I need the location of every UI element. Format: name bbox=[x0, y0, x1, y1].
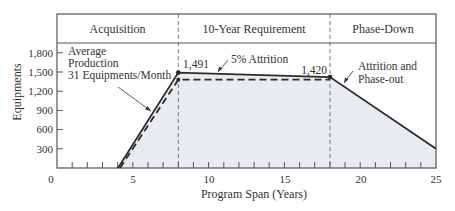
ann-avg-arrow bbox=[118, 87, 151, 111]
annotation-attrition: 5% Attrition bbox=[218, 53, 288, 72]
ann-phaseout-line1: Attrition and bbox=[358, 60, 417, 72]
x-tick-25: 25 bbox=[431, 173, 443, 185]
ann-avg-arrowhead bbox=[145, 106, 151, 111]
phase-label-acquisition: Acquisition bbox=[90, 22, 146, 36]
phase-label-phasedown: Phase-Down bbox=[352, 22, 413, 36]
y-axis-title: Equipments bbox=[10, 63, 24, 121]
phase-label-requirement: 10-Year Requirement bbox=[202, 22, 306, 36]
ann-attrition-text: 5% Attrition bbox=[231, 53, 288, 65]
y-axis-labels: 1,800 1,500 1,200 900 600 300 bbox=[28, 47, 53, 155]
ann-avg-line3: 31 Equipments/Month bbox=[68, 69, 171, 82]
equipment-program-chart: Acquisition 10-Year Requirement Phase-Do… bbox=[0, 0, 455, 211]
ann-end-value: 1,420 bbox=[301, 64, 327, 77]
y-tick-1500: 1,500 bbox=[28, 66, 53, 78]
y-tick-300: 300 bbox=[37, 143, 54, 155]
annotation-average-production: Average Production 31 Equipments/Month bbox=[68, 45, 171, 111]
x-axis-labels: 0 5 10 15 20 25 bbox=[48, 173, 442, 185]
y-tick-600: 600 bbox=[37, 123, 54, 135]
x-tick-15: 15 bbox=[280, 173, 292, 185]
ann-avg-line2: Production bbox=[68, 57, 119, 69]
x-tick-5: 5 bbox=[130, 173, 136, 185]
ann-phaseout-line2: Phase-out bbox=[358, 73, 404, 85]
y-axis-ticks bbox=[57, 53, 63, 149]
area-fill bbox=[118, 73, 436, 168]
chart-svg: Acquisition 10-Year Requirement Phase-Do… bbox=[0, 0, 455, 211]
point-peak bbox=[176, 70, 181, 75]
point-end-requirement bbox=[328, 75, 333, 80]
ann-peak-value: 1,491 bbox=[183, 58, 209, 71]
y-tick-900: 900 bbox=[37, 104, 54, 116]
point-dashed-start bbox=[176, 78, 180, 82]
annotation-phaseout: Attrition and Phase-out bbox=[344, 60, 417, 85]
x-tick-0: 0 bbox=[48, 173, 54, 185]
x-tick-20: 20 bbox=[356, 173, 368, 185]
y-tick-1200: 1,200 bbox=[28, 85, 53, 97]
x-tick-10: 10 bbox=[204, 173, 216, 185]
x-axis-title: Program Span (Years) bbox=[201, 187, 307, 201]
y-tick-1800: 1,800 bbox=[28, 47, 53, 59]
